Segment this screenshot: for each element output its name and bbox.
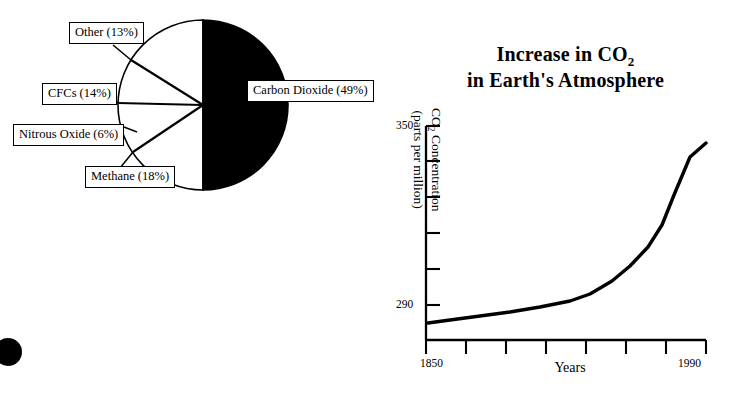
co2-increase-line-chart: Increase in CO2 in Earth's Atmosphere <box>390 35 741 405</box>
pie-callout-nitrous-oxide-label: Nitrous Oxide (6%) <box>19 127 118 141</box>
y-tick-label-290: 290 <box>396 298 413 310</box>
x-tick-label-1850: 1850 <box>420 357 443 369</box>
pie-callout-other[interactable]: Other (13%) <box>69 22 144 44</box>
pie-callout-methane[interactable]: Methane (18%) <box>85 166 175 188</box>
pie-callout-carbon-dioxide[interactable]: Carbon Dioxide (49%) <box>247 80 374 102</box>
y-axis-title: CO2 Concentration (parts per million) <box>410 75 443 245</box>
y-axis-title-line1b: Concentration <box>429 132 444 212</box>
pie-chart-svg <box>0 0 400 210</box>
figure-canvas: Other (13%) CFCs (14%) Nitrous Oxide (6%… <box>0 0 741 405</box>
greenhouse-gas-pie-chart: Other (13%) CFCs (14%) Nitrous Oxide (6%… <box>0 0 400 210</box>
pie-callout-carbon-dioxide-label: Carbon Dioxide (49%) <box>253 83 368 97</box>
pie-callout-nitrous-oxide[interactable]: Nitrous Oxide (6%) <box>13 124 124 146</box>
bullet-dot-decoration <box>0 338 22 366</box>
y-axis-title-line2: (parts per million) <box>410 111 425 209</box>
x-axis-ticks <box>426 340 706 354</box>
pie-slice-carbon-dioxide[interactable] <box>203 20 288 190</box>
leader-line-other <box>113 45 131 60</box>
pie-callout-methane-label: Methane (18%) <box>91 169 169 183</box>
co2-data-line[interactable] <box>428 143 706 323</box>
pie-callout-other-label: Other (13%) <box>75 25 138 39</box>
y-axis-title-line1: CO <box>429 108 444 127</box>
pie-callout-cfcs-label: CFCs (14%) <box>48 86 111 100</box>
pie-callout-cfcs[interactable]: CFCs (14%) <box>42 83 117 105</box>
x-axis-title: Years <box>450 360 690 376</box>
